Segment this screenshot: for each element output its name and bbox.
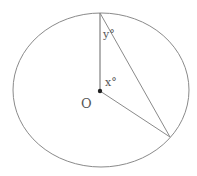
diagram-canvas: y° x° O (0, 0, 197, 176)
radius-lower-right (100, 91, 170, 137)
center-label-o: O (81, 96, 92, 111)
angle-label-y: y° (102, 28, 115, 41)
center-dot (98, 89, 102, 93)
angle-label-x: x° (105, 76, 117, 89)
